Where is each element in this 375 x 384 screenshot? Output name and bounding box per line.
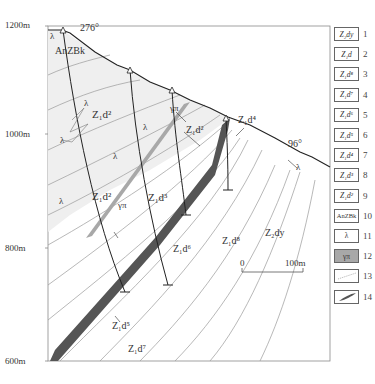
legend-item: 13 <box>334 266 375 286</box>
label-z1d3: Z₁d³ <box>148 191 167 203</box>
legend-swatch: γπ <box>334 249 359 263</box>
legend-swatch: Z₁d⁸ <box>334 67 359 81</box>
legend-swatch: Z₁d³ <box>334 168 359 182</box>
legend-item: Z₁d2 <box>334 44 375 64</box>
legend-swatch: AnZBk <box>334 209 359 223</box>
legend-number: 1 <box>363 29 368 39</box>
legend-swatch: Z₁d⁴ <box>334 148 359 162</box>
label-z1d2-upper: Z₁d² <box>92 108 111 120</box>
lambda-label-right: λ <box>296 162 300 172</box>
scale-bar-start: 0 <box>240 258 245 268</box>
label-z1d5: Z₁d⁵ <box>112 320 130 331</box>
legend-item: Z₁d⁴7 <box>334 145 375 165</box>
label-z1d2-mid: Z₁d² <box>92 190 111 202</box>
azimuth-left: 276° <box>80 22 99 33</box>
legend-number: 6 <box>363 130 368 140</box>
label-z2dy: Z₂dy <box>265 227 285 238</box>
legend-item: 14 <box>334 286 375 306</box>
legend-number: 7 <box>363 150 368 160</box>
legend-number: 8 <box>363 170 368 180</box>
legend-swatch: Z₁d⁷ <box>334 88 359 102</box>
legend-item: Z₁d³8 <box>334 165 375 185</box>
legend-swatch: Z₁d² <box>334 189 359 203</box>
elevation-label-600: 600m <box>5 356 26 366</box>
lambda-label-3: λ <box>143 122 147 132</box>
label-z1d7: Z₁d⁷ <box>128 343 146 354</box>
ore-body-icon <box>336 292 358 302</box>
elevation-label-800: 800m <box>5 243 26 253</box>
legend-number: 10 <box>363 211 372 221</box>
legend-swatch: Z₂dy <box>334 27 359 41</box>
legend-swatch: Z₁d⁵ <box>334 128 359 142</box>
legend-item: Z₁d⁶5 <box>334 105 375 125</box>
label-anzbk: AnZBk <box>55 45 85 56</box>
azimuth-right: 96° <box>288 138 302 149</box>
lambda-label-2: λ <box>60 135 64 145</box>
legend-number: 11 <box>363 231 372 241</box>
legend-item: AnZBk10 <box>334 206 375 226</box>
legend-number: 5 <box>363 110 368 120</box>
legend-item: Z₁d⁸3 <box>334 64 375 84</box>
legend: Z₂dy1 Z₁d2 Z₁d⁸3 Z₁d⁷4 Z₁d⁶5 Z₁d⁵6 Z₁d⁴7… <box>334 24 375 307</box>
elevation-label-1000: 1000m <box>5 129 30 139</box>
legend-number: 3 <box>363 69 368 79</box>
legend-number: 13 <box>363 271 372 281</box>
legend-number: 2 <box>363 49 368 59</box>
label-z1d2-right: Z₁d² <box>186 124 204 135</box>
legend-swatch-contact-line <box>334 269 359 283</box>
label-z1d6: Z₁d⁶ <box>173 243 191 254</box>
legend-item: γπ12 <box>334 246 375 266</box>
elevation-label-1200: 1200m <box>5 20 30 30</box>
legend-item: Z₂dy1 <box>334 24 375 44</box>
label-z1d4: Z₁d⁴ <box>238 114 256 125</box>
legend-swatch: λ <box>334 229 359 243</box>
legend-item: Z₁d²9 <box>334 186 375 206</box>
legend-item: Z₁d⁵6 <box>334 125 375 145</box>
lambda-label-1: λ <box>84 98 88 108</box>
legend-number: 12 <box>363 251 372 261</box>
legend-number: 14 <box>363 292 372 302</box>
lambda-label-4: λ <box>113 151 117 161</box>
legend-swatch: Z₁d <box>334 47 359 61</box>
gamma-pi-label-lower: γπ <box>118 200 127 210</box>
scale-bar-end: 100m <box>285 258 306 268</box>
legend-number: 4 <box>363 90 368 100</box>
legend-number: 9 <box>363 191 368 201</box>
legend-item: λ11 <box>334 226 375 246</box>
label-z1d8: Z₁d⁸ <box>222 235 240 246</box>
legend-swatch-ore-body <box>334 290 359 304</box>
gamma-pi-label-upper: γπ <box>170 103 179 113</box>
lambda-label-top: λ <box>50 31 54 41</box>
legend-swatch: Z₁d⁶ <box>334 108 359 122</box>
legend-item: Z₁d⁷4 <box>334 85 375 105</box>
dotted-contact-icon <box>336 271 358 281</box>
lambda-label-5: λ <box>59 196 63 206</box>
